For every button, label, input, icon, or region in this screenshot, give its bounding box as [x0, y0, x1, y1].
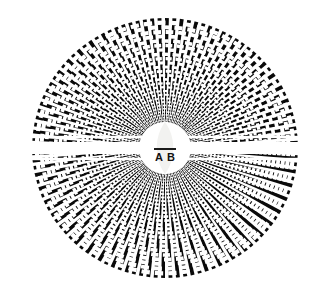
label-a: A — [155, 151, 163, 163]
label-b: B — [167, 151, 175, 163]
figure-root: A B — [0, 0, 331, 295]
radial-moire-figure: A B — [0, 0, 331, 295]
